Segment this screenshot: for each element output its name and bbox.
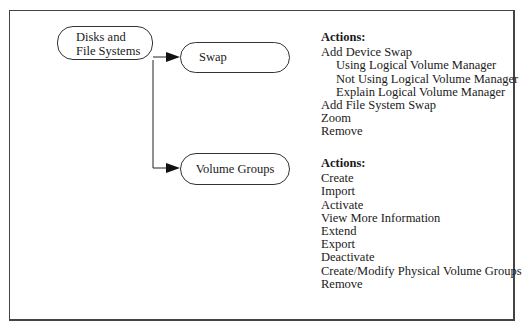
volume-groups-action-item: Create/Modify Physical Volume Groups [321, 265, 522, 278]
node-volume-groups-label: Volume Groups [196, 162, 275, 176]
node-volume-groups: Volume Groups [180, 153, 290, 185]
volume-groups-actions-title: Actions: [321, 157, 522, 170]
node-root-label-line2: File Systems [76, 44, 152, 58]
arrow-to-volume-groups-icon [166, 163, 180, 173]
volume-groups-action-item: Deactivate [321, 251, 522, 264]
node-swap-label: Swap [199, 50, 227, 64]
volume-groups-action-item: Activate [321, 199, 522, 212]
node-swap: Swap [180, 42, 290, 73]
volume-groups-actions-list: Actions: Create Import Activate View Mor… [321, 157, 522, 291]
node-root-label-line1: Disks and [76, 30, 152, 44]
swap-actions-list: Actions: Add Device Swap Using Logical V… [321, 31, 518, 139]
volume-groups-action-item: Remove [321, 278, 522, 291]
swap-action-item: Using Logical Volume Manager [321, 59, 518, 72]
node-disks-and-file-systems: Disks and File Systems [57, 26, 153, 60]
arrow-to-swap-icon [166, 52, 180, 62]
swap-action-item: Remove [321, 125, 518, 138]
volume-groups-action-item: Import [321, 185, 522, 198]
swap-action-item: Not Using Logical Volume Manager [321, 73, 518, 86]
swap-actions-title: Actions: [321, 31, 518, 44]
